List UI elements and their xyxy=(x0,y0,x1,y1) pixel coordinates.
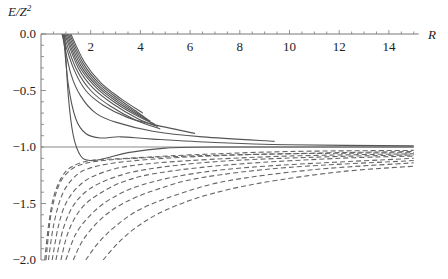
y-tick-label: −2.0 xyxy=(12,252,36,267)
x-tick-label: 12 xyxy=(333,39,346,54)
curves-layer xyxy=(41,34,414,260)
dashed-curve-dashed-2 xyxy=(48,152,413,260)
x-tick-label: 4 xyxy=(137,39,144,54)
x-tick-label: 8 xyxy=(237,39,244,54)
x-axis-title: R xyxy=(427,27,436,42)
dashed-curve-dashed-8 xyxy=(86,163,414,260)
y-axis-title: E/Z2 xyxy=(7,3,32,19)
dashed-curve-dashed-5 xyxy=(61,156,414,260)
dashed-curve-dashed-7 xyxy=(73,161,413,260)
y-tick-label: −1.5 xyxy=(12,196,36,211)
x-tick-label: 6 xyxy=(187,39,194,54)
y-tick-label: −0.5 xyxy=(12,83,36,98)
y-tick-label: −1.0 xyxy=(12,139,36,154)
solid-curve-solid-4 xyxy=(62,34,195,133)
dashed-curve-dashed-1 xyxy=(45,150,414,260)
dashed-curve-dashed-9 xyxy=(103,166,414,260)
x-tick-label: 2 xyxy=(87,39,94,54)
y-tick-label: 0.0 xyxy=(20,26,36,41)
dashed-curve-dashed-6 xyxy=(66,158,414,260)
chart-container: 24681012140.0−0.5−1.0−1.5−2.0 E/Z2 R xyxy=(0,0,448,279)
energy-curve-plot: 24681012140.0−0.5−1.0−1.5−2.0 E/Z2 R xyxy=(0,0,448,279)
x-tick-label: 10 xyxy=(283,39,296,54)
dashed-curve-dashed-3 xyxy=(52,154,414,260)
x-tick-label: 14 xyxy=(382,39,396,54)
